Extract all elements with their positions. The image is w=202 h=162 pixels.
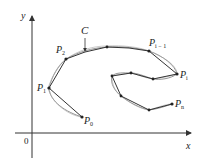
- label-p2: P2: [55, 44, 65, 56]
- x-axis-label: x: [185, 140, 191, 151]
- point-vertex: [152, 78, 155, 81]
- label-p1: P1: [36, 82, 46, 94]
- label-p-n: Pn: [174, 98, 184, 110]
- point-p1: [47, 86, 50, 89]
- point-p-i: [175, 72, 178, 75]
- point-vertex: [120, 95, 123, 98]
- point-p-n: [170, 102, 173, 105]
- y-axis-label: y: [20, 10, 26, 21]
- label-p-i-minus-1: Pi − 1: [148, 37, 166, 49]
- label-p-i: Pi: [179, 69, 188, 81]
- arc-length-diagram: y x 0 C P0 P1 P2 Pi − 1 Pi Pn: [0, 0, 202, 162]
- point-vertex: [148, 109, 151, 112]
- point-vertex: [111, 75, 114, 78]
- curve-c-outer: [48, 46, 177, 117]
- origin-label: 0: [24, 136, 29, 146]
- point-p2: [64, 57, 67, 60]
- point-vertex: [106, 46, 109, 49]
- point-p-i-minus-1: [147, 49, 150, 52]
- curve-label-c: C: [81, 24, 89, 36]
- label-p0: P0: [83, 115, 93, 127]
- point-vertex: [130, 72, 133, 75]
